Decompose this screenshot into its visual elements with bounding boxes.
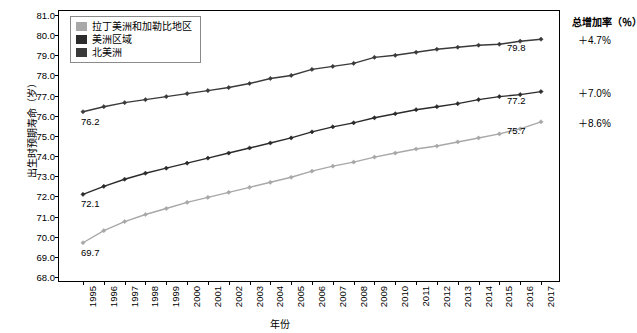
legend-swatch-icon xyxy=(76,22,87,31)
series-start-label: 76.2 xyxy=(81,116,100,127)
y-axis-tick-label: 76.0 xyxy=(37,110,56,121)
series-marker xyxy=(310,67,314,71)
series-marker xyxy=(352,61,356,65)
x-axis-tick-label: 2014 xyxy=(483,286,494,307)
x-axis-tick-label: 2011 xyxy=(420,286,431,306)
x-axis-tick-mark xyxy=(250,281,251,285)
series-marker xyxy=(393,112,397,116)
y-axis-tick-label: 74.0 xyxy=(37,151,56,162)
series-marker xyxy=(435,105,439,109)
series-marker xyxy=(476,136,480,140)
y-axis-tick-mark xyxy=(55,116,59,117)
x-axis-tick-mark xyxy=(270,281,271,285)
x-axis-title: 年份 xyxy=(0,316,560,331)
growth-value-latin-america: ＋8.6% xyxy=(578,115,611,130)
series-marker xyxy=(164,166,168,170)
x-axis-tick-mark xyxy=(374,281,375,285)
series-marker xyxy=(143,171,147,175)
series-marker xyxy=(393,151,397,155)
y-axis-tick-label: 69.0 xyxy=(37,251,56,262)
x-axis-tick-mark xyxy=(333,281,334,285)
series-marker xyxy=(331,164,335,168)
x-axis-tick-label: 2002 xyxy=(233,286,244,307)
series-marker xyxy=(102,184,106,188)
y-axis-tick-label: 71.0 xyxy=(37,211,56,222)
x-axis-tick-label: 2006 xyxy=(316,286,327,307)
x-axis-tick-label: 2004 xyxy=(274,286,285,307)
series-marker xyxy=(247,146,251,150)
series-marker xyxy=(352,121,356,125)
series-marker xyxy=(185,161,189,165)
series-end-label: 75.7 xyxy=(507,125,526,136)
x-axis-tick-mark xyxy=(208,281,209,285)
series-marker xyxy=(310,169,314,173)
x-axis-tick-label: 2000 xyxy=(191,286,202,307)
series-marker xyxy=(310,130,314,134)
series-end-label: 77.2 xyxy=(507,95,526,106)
x-axis-tick-mark xyxy=(312,281,313,285)
x-axis-tick-mark xyxy=(291,281,292,285)
y-axis-tick-label: 79.0 xyxy=(37,50,56,61)
y-axis-tick-mark xyxy=(55,75,59,76)
series-marker xyxy=(164,206,168,210)
y-axis-tick-label: 80.0 xyxy=(37,30,56,41)
y-axis-tick-label: 72.0 xyxy=(37,191,56,202)
y-axis-tick-label: 75.0 xyxy=(37,130,56,141)
x-axis-tick-label: 2008 xyxy=(358,286,369,307)
x-axis-tick-label: 2017 xyxy=(545,286,556,307)
series-marker xyxy=(414,108,418,112)
series-marker xyxy=(206,88,210,92)
series-marker xyxy=(123,177,127,181)
series-marker xyxy=(81,192,85,196)
y-axis-tick-mark xyxy=(55,136,59,137)
series-marker xyxy=(164,95,168,99)
series-marker xyxy=(372,155,376,159)
y-axis-tick-mark xyxy=(55,35,59,36)
y-axis-tick-label: 78.0 xyxy=(37,70,56,81)
x-axis-tick-mark xyxy=(125,281,126,285)
series-marker xyxy=(185,200,189,204)
x-axis-tick-label: 2003 xyxy=(254,286,265,307)
x-axis-tick-label: 2001 xyxy=(212,286,223,307)
series-marker xyxy=(289,73,293,77)
y-axis-tick-mark xyxy=(55,176,59,177)
series-line xyxy=(83,92,541,195)
series-marker xyxy=(268,180,272,184)
growth-value-north-america: ＋4.7% xyxy=(578,32,611,47)
x-axis-tick-mark xyxy=(437,281,438,285)
series-marker xyxy=(497,42,501,46)
x-axis-tick-mark xyxy=(520,281,521,285)
y-axis-tick-mark xyxy=(55,277,59,278)
series-marker xyxy=(206,156,210,160)
legend-swatch-icon xyxy=(76,48,87,57)
x-axis-tick-label: 2015 xyxy=(503,286,514,307)
series-marker xyxy=(331,64,335,68)
x-axis-tick-label: 1996 xyxy=(108,286,119,307)
series-marker xyxy=(372,116,376,120)
series-marker xyxy=(247,185,251,189)
x-axis-tick-label: 2016 xyxy=(524,286,535,307)
y-axis-tick-label: 73.0 xyxy=(37,171,56,182)
series-marker xyxy=(227,190,231,194)
series-end-label: 79.8 xyxy=(507,42,526,53)
series-marker xyxy=(206,195,210,199)
x-axis-tick-mark xyxy=(395,281,396,285)
x-axis-tick-mark xyxy=(104,281,105,285)
series-marker xyxy=(143,98,147,102)
legend-item-2: 北美洲 xyxy=(76,46,192,59)
series-marker xyxy=(123,101,127,105)
x-axis-tick-label: 2005 xyxy=(295,286,306,307)
chart-root: 出生时预期寿命（岁） 年份 76.279.872.177.269.775.7 6… xyxy=(0,0,637,333)
series-marker xyxy=(185,92,189,96)
x-axis-tick-label: 2010 xyxy=(399,286,410,307)
y-axis-tick-label: 77.0 xyxy=(37,90,56,101)
legend-label: 美洲区域 xyxy=(92,33,132,46)
x-axis-tick-mark xyxy=(458,281,459,285)
y-axis-tick-mark xyxy=(55,257,59,258)
x-axis-tick-mark xyxy=(499,281,500,285)
series-marker xyxy=(372,55,376,59)
legend-swatch-icon xyxy=(76,35,87,44)
series-marker xyxy=(268,76,272,80)
series-marker xyxy=(102,105,106,109)
x-axis-tick-mark xyxy=(145,281,146,285)
